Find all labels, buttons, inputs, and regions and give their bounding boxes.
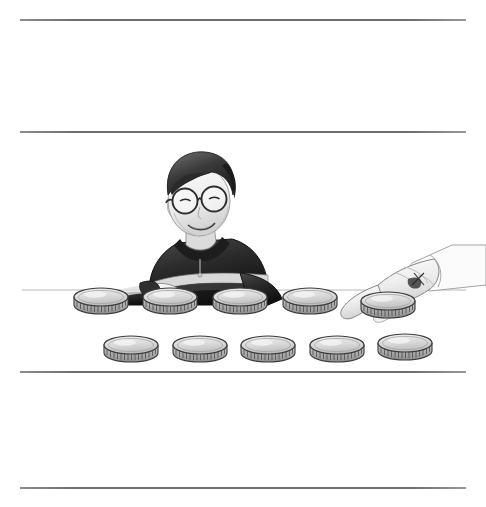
child-figure [96, 152, 282, 305]
coin [378, 334, 432, 360]
transformed-array-diagram [0, 373, 486, 487]
illustration-panel [0, 133, 486, 371]
divider-rule-bottom [20, 487, 466, 489]
coin [104, 336, 158, 362]
coin [361, 292, 415, 318]
coin [74, 288, 128, 314]
compact-coin-row [104, 334, 432, 362]
initial-array-diagram [0, 21, 486, 131]
coin [283, 288, 337, 314]
child-coins-illustration [0, 133, 486, 371]
figure-caption [24, 493, 464, 507]
coin [173, 336, 227, 362]
coin [241, 336, 295, 362]
coin [143, 288, 197, 314]
coin [213, 288, 267, 314]
coin [310, 336, 364, 362]
figure-page [0, 0, 486, 507]
